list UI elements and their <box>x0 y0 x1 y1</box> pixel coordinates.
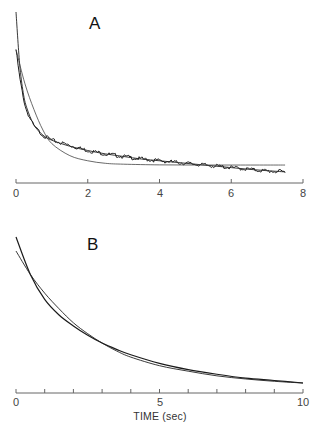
panel-a-tick-label: 2 <box>85 187 91 199</box>
panel-b-plot <box>16 237 303 393</box>
x-axis-title: TIME (sec) <box>133 410 186 422</box>
panel-a-series <box>16 12 285 173</box>
series-line <box>16 50 285 165</box>
series-line <box>16 237 303 383</box>
panel-a-x-ticks <box>16 179 303 183</box>
panel-a-label: A <box>89 14 100 34</box>
panel-b-tick-label: 10 <box>297 396 309 408</box>
panel-b-series <box>16 237 303 383</box>
panel-b-label: B <box>87 235 98 255</box>
panel-b-tick-label: 5 <box>157 396 163 408</box>
series-line <box>16 50 285 173</box>
panel-b-x-ticks <box>16 389 303 393</box>
panel-a-plot <box>16 12 303 183</box>
panel-a-tick-label: 8 <box>300 187 306 199</box>
panel-a-tick-label: 4 <box>157 187 163 199</box>
panel-a-tick-label: 0 <box>13 187 19 199</box>
panel-b-tick-label: 0 <box>13 396 19 408</box>
panel-a-tick-label: 6 <box>228 187 234 199</box>
figure <box>0 0 324 434</box>
